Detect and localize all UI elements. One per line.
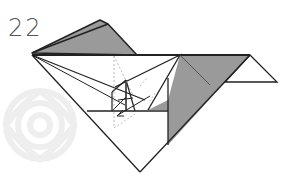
origami-diagram: [0, 0, 296, 177]
top-flap: [32, 20, 137, 55]
